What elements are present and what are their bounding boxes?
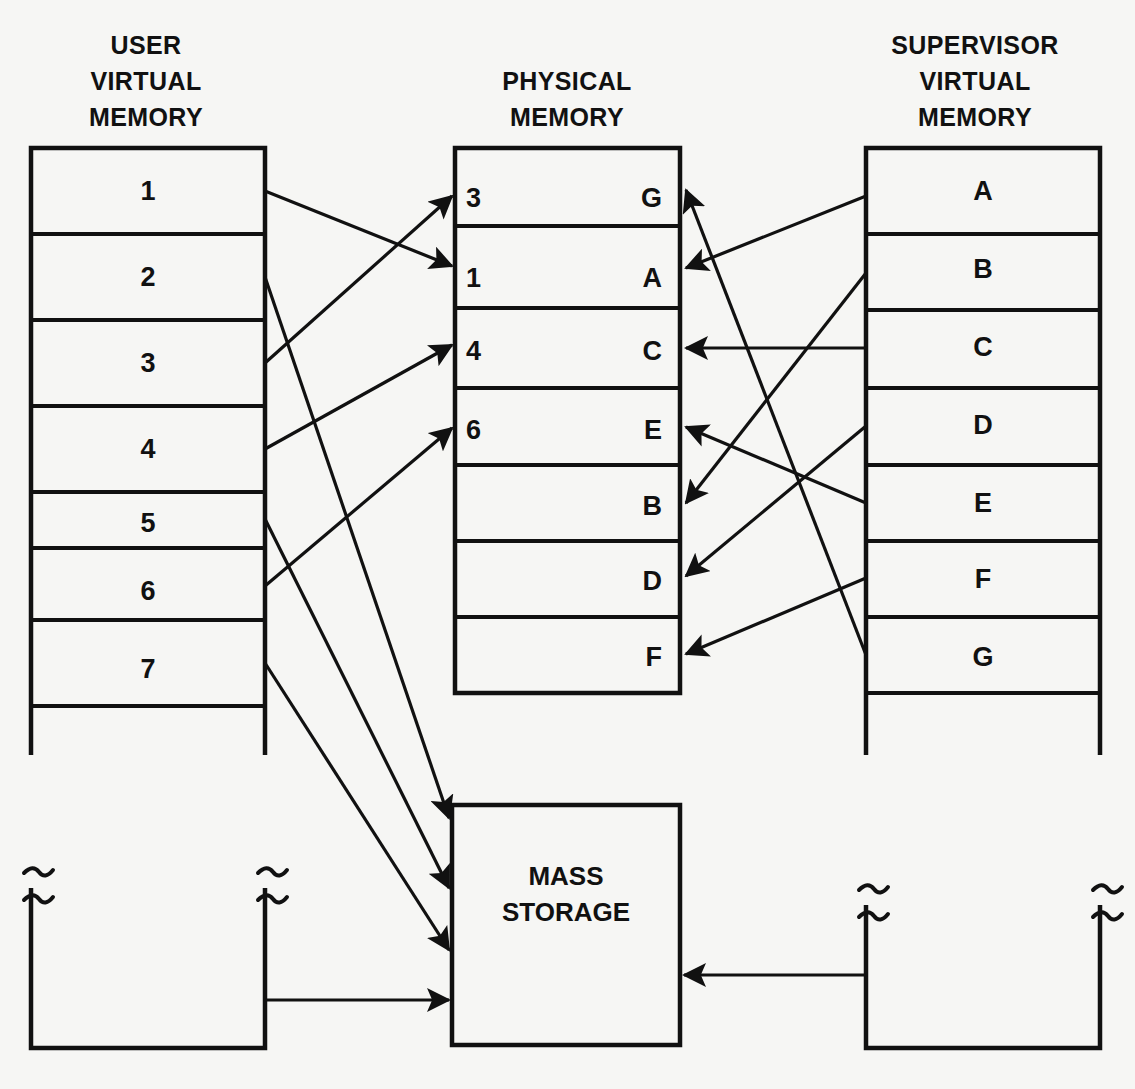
supervisor-to-physical-connections (686, 190, 866, 655)
physical-header-line-2: MEMORY (510, 103, 624, 131)
supervisor-row-label: F (975, 564, 992, 594)
mapping-arrow-supervisor-B-to-physical-B (686, 273, 866, 503)
supervisor-row-label: B (973, 254, 993, 284)
physical-memory-column: 3 1 4 6 G A C E B D F (455, 148, 680, 693)
physical-right-label: G (641, 183, 662, 213)
user-row-label: 5 (140, 508, 155, 538)
mass-storage-label-line-2: STORAGE (502, 897, 630, 927)
mapping-arrow-user-2-to-mass-storage (265, 277, 449, 818)
physical-left-label: 3 (466, 183, 481, 213)
mapping-arrow-user-6-to-physical-6 (265, 428, 452, 586)
memory-mapping-diagram: USER VIRTUAL MEMORY PHYSICAL MEMORY SUPE… (0, 0, 1135, 1089)
break-mark-icon (24, 868, 53, 875)
user-to-physical-connections (265, 191, 452, 586)
supervisor-header-line-1: SUPERVISOR (891, 31, 1058, 59)
physical-left-label: 6 (466, 415, 481, 445)
user-header-line-2: VIRTUAL (90, 67, 201, 95)
supervisor-header-line-3: MEMORY (918, 103, 1032, 131)
physical-column-header: PHYSICAL MEMORY (502, 67, 632, 131)
physical-right-label: A (643, 263, 663, 293)
break-mark-icon (1093, 885, 1122, 892)
supervisor-row-label: E (974, 488, 992, 518)
break-mark-icon (24, 895, 53, 902)
user-row-label: 2 (140, 262, 155, 292)
mapping-arrow-user-1-to-physical-1 (265, 191, 452, 266)
user-row-label: 3 (140, 348, 155, 378)
user-virtual-memory-column: 1 2 3 4 5 6 7 (24, 148, 287, 1048)
break-mark-icon (1093, 912, 1122, 919)
supervisor-virtual-memory-column: A B C D E F G (859, 148, 1122, 1048)
physical-header-line-1: PHYSICAL (502, 67, 632, 95)
physical-left-label: 1 (466, 263, 481, 293)
user-to-mass-storage-connections (265, 277, 449, 1000)
user-row-label: 6 (140, 576, 155, 606)
supervisor-header-line-2: VIRTUAL (919, 67, 1030, 95)
supervisor-row-label: A (973, 176, 993, 206)
supervisor-column-header: SUPERVISOR VIRTUAL MEMORY (891, 31, 1058, 131)
break-mark-icon (258, 895, 287, 902)
mapping-arrow-supervisor-G-to-physical-G (686, 190, 866, 655)
mass-storage-label-line-1: MASS (528, 861, 603, 891)
physical-right-label: B (643, 491, 663, 521)
mapping-arrow-supervisor-E-to-physical-E (686, 427, 866, 503)
mass-storage-block: MASS STORAGE (452, 805, 680, 1045)
diagram-canvas: USER VIRTUAL MEMORY PHYSICAL MEMORY SUPE… (0, 0, 1135, 1089)
mapping-arrow-supervisor-D-to-physical-D (686, 426, 866, 576)
user-row-label: 4 (140, 434, 155, 464)
user-row-label: 1 (140, 176, 155, 206)
supervisor-row-label: C (973, 332, 993, 362)
supervisor-row-label: G (972, 642, 993, 672)
break-mark-icon (859, 885, 888, 892)
user-header-line-3: MEMORY (89, 103, 203, 131)
user-row-label: 7 (140, 654, 155, 684)
physical-right-label: F (646, 642, 663, 672)
physical-right-label: D (643, 566, 663, 596)
physical-right-label: E (644, 415, 662, 445)
mapping-arrow-user-3-to-physical-3 (265, 196, 452, 363)
user-column-header: USER VIRTUAL MEMORY (89, 31, 203, 131)
physical-left-label: 4 (466, 336, 481, 366)
physical-right-label: C (643, 336, 663, 366)
supervisor-row-label: D (973, 410, 993, 440)
user-header-line-1: USER (110, 31, 181, 59)
break-mark-icon (258, 868, 287, 875)
break-mark-icon (859, 912, 888, 919)
